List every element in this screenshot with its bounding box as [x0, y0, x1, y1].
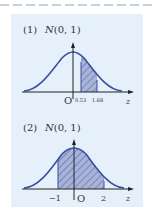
panel-2-origin-label: O [77, 193, 85, 204]
normal-distribution-figures: (1) N(0, 1) O 0.53 1.68 z (2) N(0, 1) −1… [0, 0, 152, 223]
panel-1-origin-label: O [64, 95, 72, 106]
panel-1-z-axis-arrow-icon [128, 90, 134, 94]
panel-2-tick-label: 2 [101, 194, 106, 203]
panel-1-tick-label: 1.68 [92, 97, 103, 103]
panel-2-axis-label: z [125, 194, 131, 203]
panel-1-axis-label: z [125, 97, 131, 106]
panel-1-tick-label: 0.53 [75, 97, 86, 103]
panel-2-index-label: (2) [23, 122, 37, 133]
panel-2-tick-label: −1 [49, 194, 61, 203]
panel-1: (1) N(0, 1) O 0.53 1.68 z [22, 24, 134, 106]
panel-2-y-axis-arrow-icon [72, 139, 76, 145]
panel-1-distribution-label: N(0, 1) [44, 24, 81, 35]
panel-2-distribution-label: N(0, 1) [44, 122, 81, 133]
panel-1-index-label: (1) [23, 24, 37, 35]
panel-1-y-axis-arrow-icon [71, 42, 75, 48]
panel-2-z-axis-arrow-icon [128, 187, 134, 191]
panel-2: (2) N(0, 1) −1 O 2 z [22, 122, 134, 204]
